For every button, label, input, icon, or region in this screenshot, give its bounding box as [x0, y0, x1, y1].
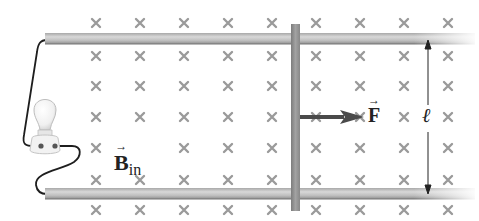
field-into-page-marker-icon [268, 176, 276, 184]
field-into-page-marker-icon [400, 206, 408, 214]
field-into-page-marker-icon [400, 144, 408, 152]
field-into-page-marker-icon [180, 52, 188, 60]
field-into-page-marker-icon [224, 52, 232, 60]
field-into-page-marker-icon [356, 206, 364, 214]
field-into-page-marker-icon [92, 176, 100, 184]
field-into-page-marker-icon [356, 19, 364, 27]
field-into-page-marker-icon [136, 206, 144, 214]
bottom-rail [45, 187, 479, 200]
field-into-page-marker-icon [444, 176, 452, 184]
field-into-page-marker-icon [400, 82, 408, 90]
field-into-page-marker-icon [180, 144, 188, 152]
field-into-page-marker-icon [224, 82, 232, 90]
field-into-page-marker-icon [312, 144, 320, 152]
field-into-page-marker-icon [92, 113, 100, 121]
diagram-svg [0, 0, 479, 221]
field-into-page-marker-icon [136, 82, 144, 90]
field-into-page-marker-icon [224, 206, 232, 214]
light-bulb-icon [30, 100, 60, 154]
field-into-page-marker-icon [400, 176, 408, 184]
field-into-page-marker-icon [312, 206, 320, 214]
magnetic-field-markers [92, 19, 452, 214]
field-into-page-marker-icon [400, 52, 408, 60]
field-into-page-marker-icon [180, 82, 188, 90]
field-into-page-marker-icon [224, 19, 232, 27]
field-into-page-marker-icon [444, 206, 452, 214]
force-symbol: F [368, 104, 380, 127]
field-into-page-marker-icon [268, 52, 276, 60]
force-label: F [368, 104, 380, 127]
field-into-page-marker-icon [136, 52, 144, 60]
field-into-page-marker-icon [92, 144, 100, 152]
field-into-page-marker-icon [356, 52, 364, 60]
field-into-page-marker-icon [268, 19, 276, 27]
field-into-page-marker-icon [444, 113, 452, 121]
field-into-page-marker-icon [312, 19, 320, 27]
magnetic-field-symbol: B [114, 150, 129, 176]
field-into-page-marker-icon [92, 82, 100, 90]
field-into-page-marker-icon [268, 82, 276, 90]
field-into-page-marker-icon [444, 82, 452, 90]
field-into-page-marker-icon [400, 113, 408, 121]
field-into-page-marker-icon [92, 19, 100, 27]
field-into-page-marker-icon [268, 206, 276, 214]
field-into-page-marker-icon [444, 52, 452, 60]
field-into-page-marker-icon [180, 19, 188, 27]
field-into-page-marker-icon [312, 176, 320, 184]
field-into-page-marker-icon [92, 206, 100, 214]
field-into-page-marker-icon [224, 176, 232, 184]
field-into-page-marker-icon [224, 113, 232, 121]
field-into-page-marker-icon [444, 19, 452, 27]
field-into-page-marker-icon [356, 176, 364, 184]
magnetic-field-label: Bin [114, 150, 141, 179]
field-into-page-marker-icon [268, 144, 276, 152]
field-into-page-marker-icon [92, 52, 100, 60]
force-arrow-icon [300, 110, 364, 124]
field-into-page-marker-icon [312, 52, 320, 60]
magnetic-field-subscript: in [129, 161, 141, 178]
field-into-page-marker-icon [180, 113, 188, 121]
field-into-page-marker-icon [312, 82, 320, 90]
top-rail [45, 32, 479, 45]
field-into-page-marker-icon [136, 19, 144, 27]
field-into-page-marker-icon [268, 113, 276, 121]
field-into-page-marker-icon [180, 206, 188, 214]
field-into-page-marker-icon [356, 82, 364, 90]
field-into-page-marker-icon [180, 176, 188, 184]
field-into-page-marker-icon [400, 19, 408, 27]
sliding-bar [291, 24, 300, 211]
field-into-page-marker-icon [356, 144, 364, 152]
length-label: ℓ [422, 104, 430, 127]
field-into-page-marker-icon [224, 144, 232, 152]
field-into-page-marker-icon [136, 113, 144, 121]
field-into-page-marker-icon [444, 144, 452, 152]
diagram-canvas: Bin F ℓ [0, 0, 479, 221]
